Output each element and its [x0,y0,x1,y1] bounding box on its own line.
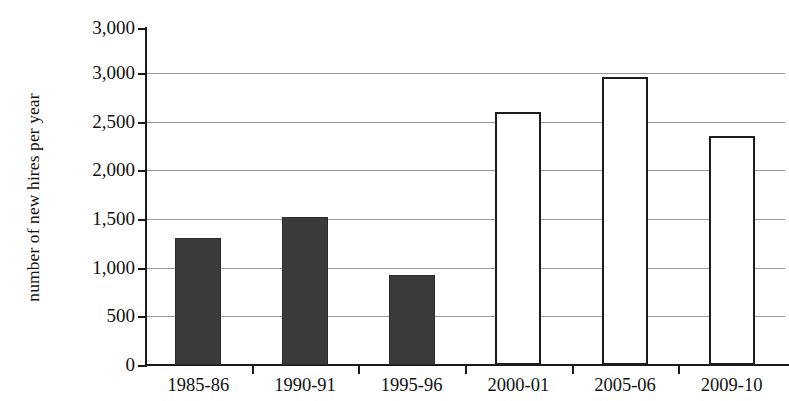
y-tick-mark [138,365,147,367]
gridline [145,122,785,123]
y-axis-top-tick-mark [138,28,147,30]
y-tick-label: 0 [49,355,135,374]
x-tick-mark [678,366,680,374]
y-tick-label: 2,500 [49,112,135,131]
bar [175,238,221,365]
gridline [145,170,785,171]
y-tick-label: 2,000 [49,160,135,179]
gridline [145,268,785,269]
gridline [145,73,785,74]
y-tick-label: 500 [49,306,135,325]
bar [389,275,435,365]
y-axis-title: number of new hires per year [23,28,44,368]
y-tick-mark [138,170,147,172]
x-tick-mark [465,366,467,374]
y-axis-line [145,27,147,366]
y-tick-mark [138,73,147,75]
x-tick-mark [252,366,254,374]
y-axis-top-label: 3,000 [49,18,135,37]
y-tick-mark [138,122,147,124]
y-tick-label: 1,000 [49,258,135,277]
y-tick-mark [138,316,147,318]
bar [495,112,541,365]
y-tick-label: 1,500 [49,209,135,228]
gridline [145,219,785,220]
y-tick-mark [138,268,147,270]
x-axis-line [145,364,789,366]
x-tick-mark [358,366,360,374]
gridline [145,316,785,317]
bar [709,136,755,365]
y-tick-mark [138,219,147,221]
bar [602,77,648,365]
y-tick-label: 3,000 [49,63,135,82]
bar [282,217,328,365]
bar-chart-figure: number of new hires per year 05001,0001,… [0,0,789,401]
x-tick-mark [572,366,574,374]
x-tick-label: 2009-10 [667,374,789,396]
